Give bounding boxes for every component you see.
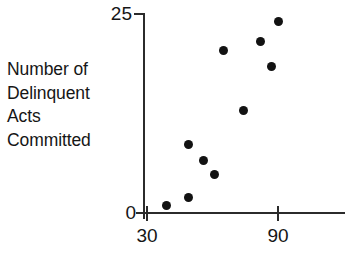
y-axis-tick-label-0: 0 [120, 203, 136, 222]
x-axis-tick-label-30: 30 [131, 226, 163, 245]
data-point [239, 106, 248, 115]
x-axis-line [136, 212, 345, 214]
y-axis-tick-label-25: 25 [104, 4, 132, 23]
y-axis-label-line-1: Number of [7, 58, 127, 82]
x-axis-tick-90 [277, 206, 279, 221]
data-point [184, 140, 193, 149]
data-point [184, 193, 193, 202]
data-point [199, 156, 208, 165]
x-axis-tick-30 [146, 206, 148, 221]
data-point [210, 170, 219, 179]
y-axis-label-line-2: Delinquent [7, 82, 127, 106]
y-axis-label-line-4: Committed [7, 129, 127, 153]
scatter-plot-figure: Number of Delinquent Acts Committed 25 0… [0, 0, 355, 262]
data-point [267, 62, 276, 71]
y-axis-tick-25 [134, 13, 144, 15]
data-point [256, 37, 265, 46]
y-axis-label: Number of Delinquent Acts Committed [7, 58, 127, 152]
y-axis-label-line-3: Acts [7, 105, 127, 129]
data-point [162, 201, 171, 210]
y-axis-line [143, 13, 145, 219]
data-point [219, 46, 228, 55]
x-axis-tick-label-90: 90 [262, 226, 294, 245]
data-point [274, 17, 283, 26]
